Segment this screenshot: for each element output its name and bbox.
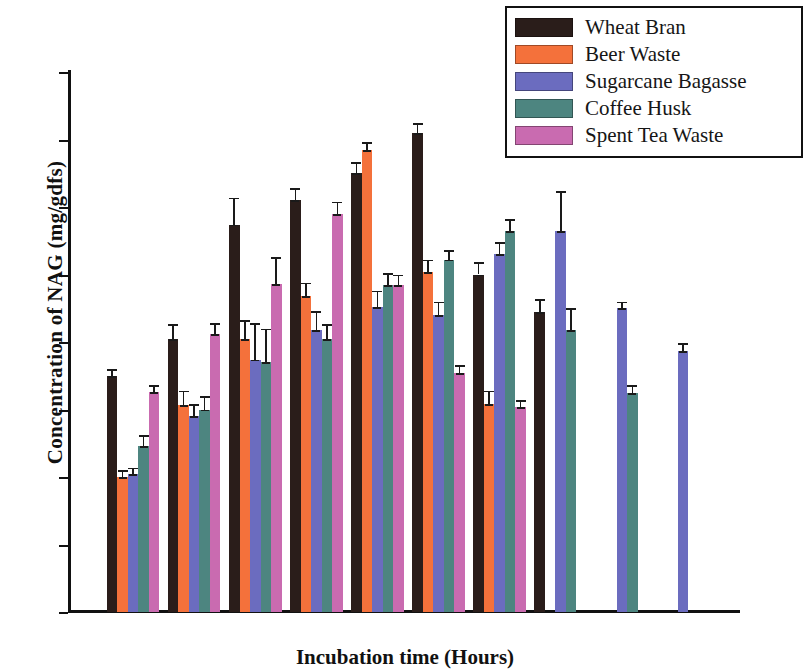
bar: [393, 285, 404, 612]
error-bar-stem: [387, 273, 389, 285]
bar: [117, 477, 128, 612]
legend-item: Sugarcane Bagasse: [515, 68, 793, 95]
bar: [534, 312, 545, 612]
error-bar-stem: [337, 202, 339, 214]
error-bar-cap: [301, 283, 311, 285]
bar: [473, 275, 484, 613]
error-bar-cap: [139, 435, 149, 437]
error-bar-cap: [290, 188, 300, 190]
error-bar-stem: [193, 404, 195, 416]
error-bar-stem: [427, 260, 429, 272]
bar: [138, 446, 149, 612]
error-bar-cap: [118, 470, 128, 472]
bar: [433, 315, 444, 612]
error-bar-cap: [149, 385, 159, 387]
bar: [555, 231, 566, 612]
y-axis-tick: [59, 140, 68, 142]
error-bar-base-cap: [475, 275, 483, 277]
chart-legend: Wheat BranBeer WasteSugarcane BagasseCof…: [505, 6, 803, 158]
error-bar-base-cap: [333, 214, 341, 216]
error-bar-base-cap: [567, 330, 575, 332]
error-bar-cap: [383, 273, 393, 275]
error-bar-cap: [535, 299, 545, 301]
y-axis-tick: [59, 207, 68, 209]
bar: [240, 339, 251, 612]
error-bar-stem: [305, 283, 307, 297]
error-bar-cap: [210, 323, 220, 325]
error-bar-cap: [372, 291, 382, 293]
legend-item-label: Sugarcane Bagasse: [585, 71, 747, 92]
chart-figure: Concentration of NAG (mg/gdfs) 051015202…: [0, 0, 810, 672]
error-bar-stem: [316, 311, 318, 330]
error-bar-cap: [200, 396, 210, 398]
error-bar-base-cap: [312, 330, 320, 332]
legend-item: Coffee Husk: [515, 95, 793, 122]
error-bar-cap: [168, 324, 178, 326]
bar: [412, 133, 423, 612]
error-bar-base-cap: [140, 446, 148, 448]
error-bar-cap: [556, 191, 566, 193]
bar: [168, 339, 179, 612]
legend-color-swatch: [515, 72, 573, 91]
error-bar-base-cap: [536, 312, 544, 314]
error-bar-base-cap: [557, 231, 565, 233]
error-bar-base-cap: [424, 272, 432, 274]
error-bar-base-cap: [352, 173, 360, 175]
error-bar-base-cap: [679, 351, 687, 353]
legend-item-label: Beer Waste: [585, 44, 680, 65]
error-bar-stem: [570, 308, 572, 330]
error-bar-base-cap: [456, 373, 464, 375]
error-bar-stem: [326, 324, 328, 339]
error-bar-base-cap: [241, 339, 249, 341]
error-bar-cap: [434, 302, 444, 304]
legend-item: Wheat Bran: [515, 14, 793, 41]
legend-item-label: Spent Tea Waste: [585, 125, 723, 146]
error-bar-stem: [509, 219, 511, 231]
bar: [444, 260, 455, 612]
x-axis-title: Incubation time (Hours): [0, 645, 810, 670]
error-bar-cap: [240, 320, 250, 322]
y-axis-tick: [59, 72, 68, 74]
error-bar-cap: [678, 343, 688, 345]
error-bar-cap: [332, 202, 342, 204]
bar: [189, 416, 200, 612]
y-axis-tick: [59, 342, 68, 344]
bar: [678, 351, 689, 612]
error-bar-base-cap: [517, 407, 525, 409]
legend-item-label: Wheat Bran: [585, 17, 686, 38]
error-bar-base-cap: [180, 405, 188, 407]
error-bar-base-cap: [150, 392, 158, 394]
bar: [229, 225, 240, 612]
error-bar-base-cap: [363, 150, 371, 152]
error-bar-stem: [172, 324, 174, 339]
error-bar-cap: [261, 329, 271, 331]
error-bar-base-cap: [373, 307, 381, 309]
error-bar-cap: [484, 391, 494, 393]
error-bar-base-cap: [496, 254, 504, 256]
legend-color-swatch: [515, 99, 573, 118]
bar: [290, 200, 301, 612]
bar: [311, 330, 322, 612]
y-axis-tick: [59, 612, 68, 614]
error-bar-base-cap: [384, 285, 392, 287]
error-bar-cap: [179, 391, 189, 393]
error-bar-cap: [413, 123, 423, 125]
y-axis-tick: [59, 477, 68, 479]
error-bar-cap: [107, 369, 117, 371]
error-bar-cap: [189, 404, 199, 406]
error-bar-base-cap: [230, 225, 238, 227]
error-bar-stem: [233, 198, 235, 225]
bar: [210, 334, 221, 612]
error-bar-stem: [499, 242, 501, 254]
error-bar-stem: [183, 391, 185, 406]
bar: [107, 376, 118, 612]
error-bar-base-cap: [211, 334, 219, 336]
error-bar-cap: [495, 242, 505, 244]
error-bar-base-cap: [323, 339, 331, 341]
error-bar-stem: [275, 257, 277, 284]
error-bar-base-cap: [291, 200, 299, 202]
error-bar-cap: [627, 385, 637, 387]
bar: [505, 231, 516, 612]
error-bar-cap: [393, 275, 403, 277]
error-bar-base-cap: [169, 339, 177, 341]
